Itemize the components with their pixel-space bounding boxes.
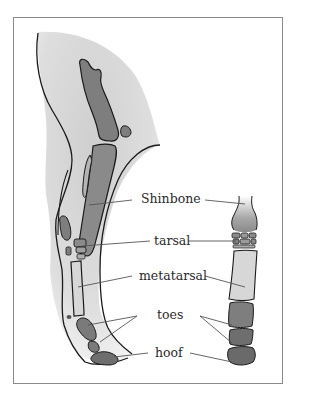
metatarsal-bone-right [229,250,257,300]
toe-bone-right-2 [229,329,253,346]
label-shinbone: Shinbone [141,193,201,206]
tarsal-bone-3 [77,254,85,259]
shinbone-distal [232,196,257,232]
toe-bone-right-1 [229,302,254,328]
right-foot-bones [228,196,257,365]
tarsal-bones-right [232,233,256,248]
tarsal-bone-2 [76,247,86,253]
label-tarsal: tarsal [154,235,190,248]
label-hoof: hoof [155,347,183,360]
label-toes: toes [157,309,183,322]
label-metatarsal: metatarsal [139,270,207,283]
patella-bone [121,126,131,137]
